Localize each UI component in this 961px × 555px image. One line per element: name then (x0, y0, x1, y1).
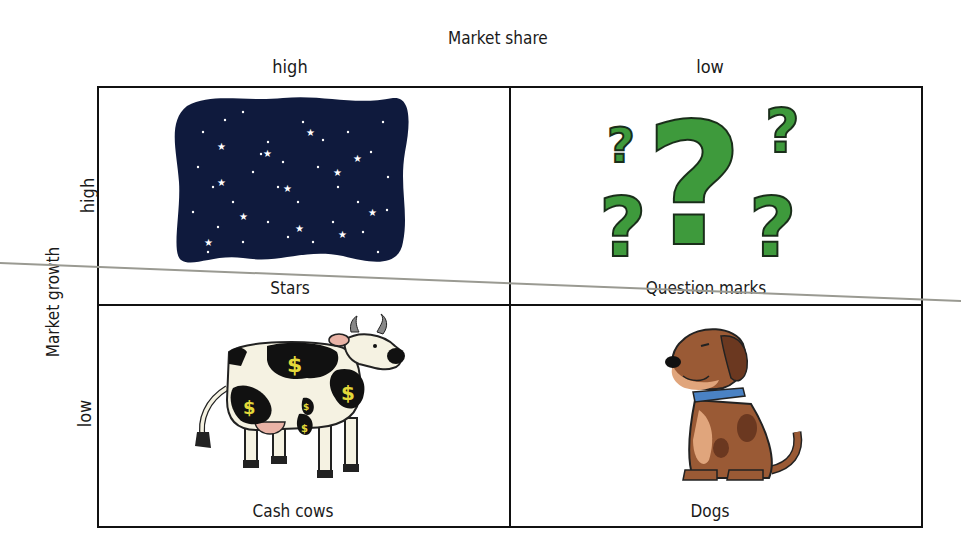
cow-with-dollar-spots-icon: $ $ $ $ $ (187, 310, 411, 480)
svg-text:★: ★ (368, 207, 377, 218)
y-low-label: low (74, 394, 95, 434)
svg-text:?: ? (749, 180, 797, 264)
svg-text:★: ★ (263, 148, 272, 159)
night-sky-stars-icon: ★★★★ ★★★★ ★★★★ (173, 92, 413, 270)
svg-text:?: ? (765, 96, 800, 166)
svg-text:★: ★ (295, 223, 304, 234)
svg-text:★: ★ (353, 153, 362, 164)
svg-text:$: $ (301, 423, 308, 434)
quadrant-stars: ★★★★ ★★★★ ★★★★ Stars (99, 88, 509, 304)
svg-text:$: $ (303, 402, 309, 412)
svg-text:★: ★ (338, 229, 347, 240)
question-marks-icon: ? ? ? ? ? (599, 94, 819, 264)
quadrant-question-marks: ? ? ? ? ? Question marks (511, 88, 923, 304)
svg-text:★: ★ (306, 127, 315, 138)
quadrant-label-dogs: Dogs (610, 501, 810, 521)
svg-text:★: ★ (333, 167, 342, 178)
y-axis-title: Market growth (43, 237, 63, 367)
svg-text:?: ? (607, 117, 635, 173)
svg-text:★: ★ (204, 237, 213, 248)
quadrant-dogs: Dogs (511, 306, 923, 528)
quadrant-cash-cows: $ $ $ $ $ Cash cows (99, 306, 509, 528)
x-axis-title: Market share (448, 28, 548, 48)
quadrant-label-cash-cows: Cash cows (193, 501, 393, 521)
quadrant-label-stars: Stars (190, 278, 390, 298)
svg-text:★: ★ (217, 177, 226, 188)
svg-text:$: $ (341, 381, 355, 405)
svg-text:★: ★ (217, 141, 226, 152)
svg-text:★: ★ (239, 211, 248, 222)
svg-text:★: ★ (283, 183, 292, 194)
x-low-label: low (690, 56, 730, 77)
y-high-label: high (77, 171, 98, 221)
svg-text:?: ? (645, 94, 744, 264)
svg-text:?: ? (599, 180, 647, 264)
svg-text:$: $ (243, 397, 256, 418)
sitting-dog-icon (659, 320, 813, 486)
x-high-label: high (270, 56, 310, 77)
svg-text:$: $ (287, 352, 302, 377)
